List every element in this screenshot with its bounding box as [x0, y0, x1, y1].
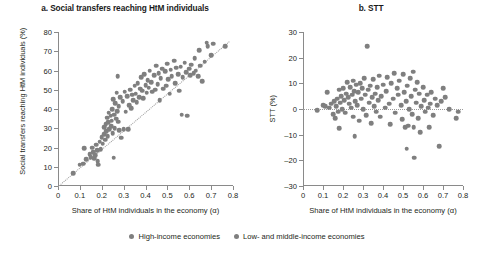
panel-b-data-point: [447, 107, 452, 112]
panel-a-data-point: [192, 56, 197, 61]
panel-b-data-point: [381, 82, 386, 87]
panel-b-data-point: [384, 89, 389, 94]
panel-a-data-point: [98, 147, 103, 152]
panel-b-data-point: [315, 108, 320, 113]
panel-b-data-point: [349, 105, 354, 110]
panel-a-x-tick: [233, 186, 234, 190]
panel-b-data-point: [437, 144, 442, 149]
panel-a-data-point: [71, 171, 76, 176]
panel-a-data-point: [178, 64, 183, 69]
panel-b-x-tick-label: 0.5: [398, 191, 409, 200]
panel-a-data-point: [114, 90, 119, 95]
legend-marker-icon: [234, 234, 239, 239]
legend: High-income economies Low- and middle-in…: [0, 232, 494, 241]
panel-b-y-tick: [299, 83, 303, 84]
panel-a-data-point: [167, 91, 172, 96]
panel-b-data-point: [411, 69, 416, 74]
panel-b-data-point: [345, 80, 350, 85]
legend-item-high-income: High-income economies: [129, 232, 219, 241]
panel-a-y-tick: [54, 51, 58, 52]
panel-b-data-point: [383, 105, 388, 110]
panel-a-x-tick-label: 0.4: [140, 191, 151, 200]
panel-a-data-point: [169, 74, 174, 79]
panel-a-data-point: [180, 75, 185, 80]
panel-a-data-point: [153, 87, 158, 92]
panel-b-data-point: [443, 95, 448, 100]
panel-b-y-tick-label: 0: [293, 105, 297, 114]
panel-a-data-point: [179, 112, 184, 117]
panel-b-data-point: [375, 85, 380, 90]
panel-b-data-point: [356, 90, 361, 95]
panel-a-data-point: [106, 134, 111, 139]
panel-b-data-point: [343, 111, 348, 116]
panel-b-data-point: [395, 86, 400, 91]
panel-a-x-tick: [80, 186, 81, 190]
panel-a-y-tick-label: 20: [44, 143, 52, 152]
panel-b-y-tick: [299, 135, 303, 136]
legend-label: High-income economies: [138, 232, 219, 241]
panel-a-data-point: [198, 63, 203, 68]
panel-a-data-point: [96, 163, 101, 168]
panel-b-data-point: [351, 114, 356, 119]
panel-b-x-tick: [303, 186, 304, 190]
panel-b-data-point: [393, 111, 398, 116]
panel-b-data-point: [357, 118, 362, 123]
panel-a-data-point: [115, 74, 120, 79]
panel-b-data-point: [373, 91, 378, 96]
panel-a-x-tick-label: 0: [56, 191, 60, 200]
panel-b-data-point: [412, 155, 417, 160]
panel-a-data-point: [168, 67, 173, 72]
panel-a-x-tick-label: 0.6: [184, 191, 195, 200]
panel-b-data-point: [363, 93, 368, 98]
panel-a-y-tick: [54, 128, 58, 129]
panel-a-y-tick-label: 10: [44, 162, 52, 171]
panel-b-data-point: [385, 75, 390, 80]
panel-a-data-point: [185, 113, 190, 118]
panel-b-data-point: [360, 86, 365, 91]
panel-b-data-point: [419, 104, 424, 109]
panel-b-x-tick-label: 0.1: [318, 191, 329, 200]
panel-a-y-tick: [54, 90, 58, 91]
panel-a-data-point: [164, 84, 169, 89]
panel-a-data-point: [183, 61, 188, 66]
panel-b-data-point: [387, 102, 392, 107]
panel-b-data-point: [392, 71, 397, 76]
panel-a-data-point: [189, 62, 194, 67]
panel-a-data-point: [155, 82, 160, 87]
panel-b-data-point: [454, 116, 459, 121]
panel-a-data-point: [159, 76, 164, 81]
panel-a-data-point: [129, 106, 134, 111]
panel-b-data-point: [417, 91, 422, 96]
panel-b-data-point: [411, 125, 416, 130]
panel-a-x-tick: [167, 186, 168, 190]
panel-b-data-point: [427, 125, 432, 130]
panel-a-data-point: [149, 80, 154, 85]
panel-a-y-axis-title: Social transfers reaching HtM individual…: [18, 35, 28, 175]
panel-b-data-point: [435, 103, 440, 108]
panel-b-x-tick-label: 0.4: [378, 191, 389, 200]
panel-b-data-point: [391, 96, 396, 101]
panel-a-x-tick: [102, 186, 103, 190]
panel-b-x-tick: [383, 186, 384, 190]
panel-a-y-tick-label: 50: [44, 85, 52, 94]
panel-b-y-tick-label: 10: [289, 79, 297, 88]
panel-b-data-point: [378, 114, 383, 119]
panel-b-data-point: [367, 100, 372, 105]
panel-b-x-tick-label: 0: [301, 191, 305, 200]
panel-b-x-tick-label: 0.6: [418, 191, 429, 200]
panel-b-data-point: [364, 113, 369, 118]
panel-b-x-tick-label: 0.2: [338, 191, 349, 200]
panel-a-data-point: [134, 100, 139, 105]
panel-b-data-point: [405, 84, 410, 89]
panel-a-x-tick: [189, 186, 190, 190]
panel-a-data-point: [165, 61, 170, 66]
panel-b-x-tick: [423, 186, 424, 190]
panel-b-data-point: [431, 113, 436, 118]
panel-b-data-point: [334, 104, 339, 109]
panel-b-data-point: [397, 78, 402, 83]
panel-a-data-point: [93, 153, 98, 158]
panel-a-data-point: [111, 155, 116, 160]
panel-a-y-tick: [54, 148, 58, 149]
panel-b-data-point: [409, 94, 414, 99]
panel-a-x-tick: [124, 186, 125, 190]
